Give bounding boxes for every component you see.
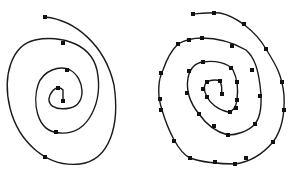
sample-point (200, 36, 204, 40)
sample-point (201, 87, 205, 91)
sample-point (188, 156, 192, 160)
sample-point (54, 130, 58, 134)
sample-point (235, 80, 239, 84)
sample-point (282, 108, 286, 112)
sample-point (191, 12, 195, 16)
sample-point (205, 80, 209, 84)
sample-point (235, 98, 239, 102)
sample-point (220, 92, 224, 96)
right-spiral (158, 11, 286, 166)
sample-point (56, 86, 60, 90)
sample-point (244, 156, 248, 160)
sample-point (233, 162, 237, 166)
sample-point (43, 15, 47, 19)
sample-point (271, 140, 275, 144)
sample-point (61, 41, 65, 45)
sample-point (280, 80, 284, 84)
sample-point (228, 110, 232, 114)
sample-point (159, 71, 163, 75)
sample-point (264, 47, 268, 51)
sample-point (187, 69, 191, 73)
left-spiral-curve (7, 17, 115, 164)
sample-point (185, 91, 189, 95)
sample-point (187, 38, 191, 42)
sample-point (176, 42, 180, 46)
sample-point (253, 122, 257, 126)
right-spiral-curve (159, 13, 284, 164)
sample-point (226, 133, 230, 137)
sample-point (250, 68, 254, 72)
sample-point (213, 160, 217, 164)
sample-point (258, 94, 262, 98)
sample-point (43, 155, 47, 159)
sample-point (159, 108, 163, 112)
sample-point (230, 44, 234, 48)
sample-point (242, 22, 246, 26)
left-spiral (7, 15, 115, 164)
sample-point (212, 124, 216, 128)
sample-point (65, 68, 69, 72)
sample-point (229, 66, 233, 70)
sample-point (61, 99, 65, 103)
sample-point (172, 139, 176, 143)
sample-point (234, 106, 238, 110)
sample-point (158, 97, 162, 101)
sample-point (205, 95, 209, 99)
spiral-figure (0, 0, 293, 172)
sample-point (212, 11, 216, 15)
sample-point (197, 112, 201, 116)
sample-point (201, 60, 205, 64)
left-spiral-points (43, 15, 69, 159)
sample-point (218, 79, 222, 83)
